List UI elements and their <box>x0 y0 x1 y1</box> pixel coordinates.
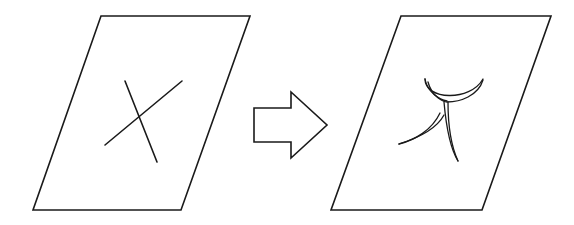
sheet-parallelogram-left <box>33 16 250 210</box>
before-panel <box>33 16 250 210</box>
diagram-canvas: Straight strokes (X) transforms into Cur… <box>0 0 574 225</box>
after-panel <box>331 16 551 210</box>
sheet-parallelogram-right <box>331 16 551 210</box>
block-arrow-right-icon <box>254 92 327 158</box>
